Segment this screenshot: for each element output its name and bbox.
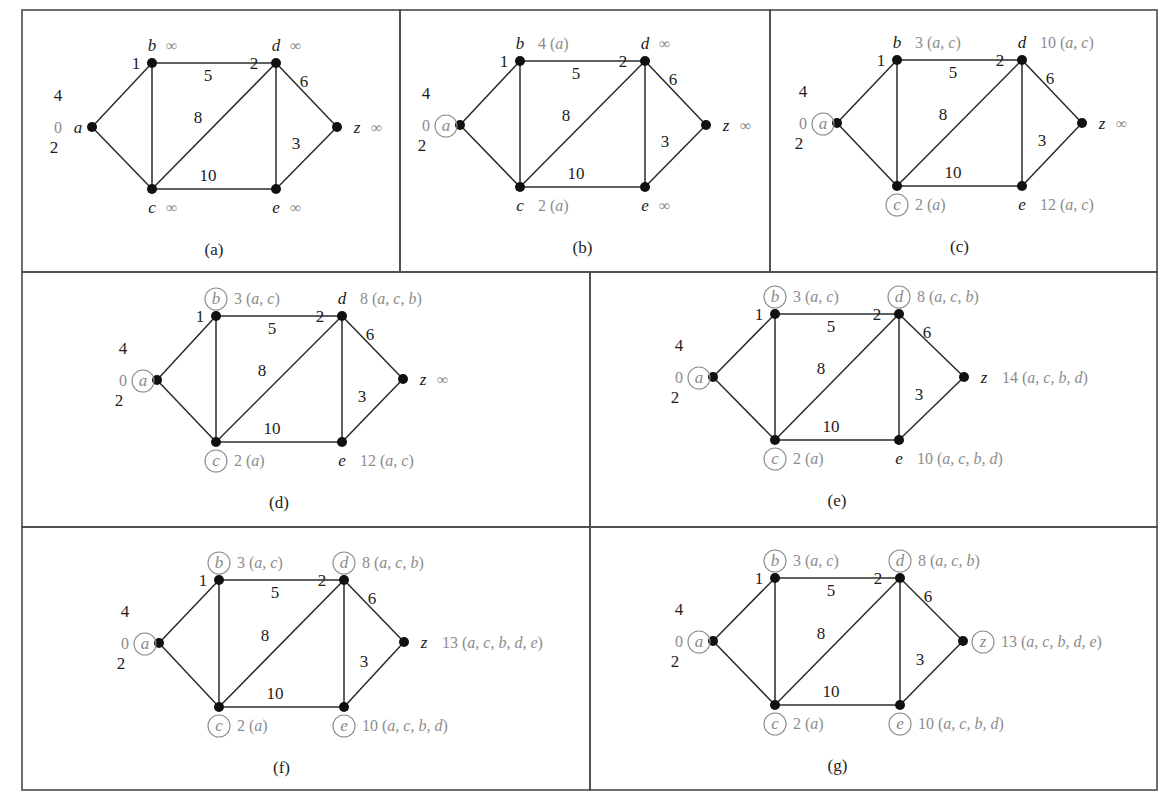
vertex-c-name: c bbox=[215, 716, 223, 735]
panel-d: 4215810263a0b3 (a, c)c2 (a)d8 (a, c, b)e… bbox=[22, 272, 590, 527]
edge-e-z bbox=[900, 641, 963, 705]
edge-a-c bbox=[460, 125, 520, 187]
vertex-z-dot bbox=[701, 120, 711, 130]
vertex-c-dot bbox=[770, 700, 780, 710]
vertex-a-distance-label: 0 bbox=[54, 119, 62, 136]
edge-weight: 8 bbox=[817, 624, 826, 643]
vertex-a-name: a bbox=[695, 632, 704, 651]
panel-b: 4215810263a0b4 (a)c2 (a)d∞e∞z∞(b) bbox=[400, 10, 770, 272]
vertex-z-dot bbox=[399, 637, 409, 647]
vertex-d-distance-label: 8 (a, c, b) bbox=[362, 554, 424, 572]
vertex-a-distance-label: 0 bbox=[422, 117, 430, 134]
vertex-z-name: z bbox=[980, 368, 988, 387]
edge-weight: 6 bbox=[669, 70, 678, 89]
edge-e-z bbox=[1022, 123, 1082, 186]
edge-weight: 2 bbox=[250, 54, 259, 73]
vertex-e-dot bbox=[1017, 181, 1027, 191]
vertex-d-name: d bbox=[338, 289, 347, 308]
vertex-z-distance-label: 13 (a, c, b, d, e) bbox=[442, 634, 543, 652]
edge-weight: 5 bbox=[949, 63, 958, 82]
edge-weight: 1 bbox=[199, 571, 208, 590]
edge-weight: 3 bbox=[1038, 131, 1047, 150]
vertex-b-dot bbox=[214, 575, 224, 585]
edge-weight: 8 bbox=[194, 108, 203, 127]
edge-weight: 5 bbox=[827, 317, 836, 336]
edge-weight: 3 bbox=[360, 652, 369, 671]
vertex-b-distance-label: 3 (a, c) bbox=[237, 554, 283, 572]
vertex-e-dot bbox=[337, 437, 347, 447]
edge-weight: 8 bbox=[562, 106, 571, 125]
vertex-d-name: d bbox=[272, 36, 281, 55]
vertex-c-dot bbox=[211, 437, 221, 447]
panel-caption: (a) bbox=[205, 240, 224, 259]
vertex-b-distance-label: 3 (a, c) bbox=[915, 34, 961, 52]
edge-weight: 5 bbox=[572, 64, 581, 83]
vertex-e-distance-label: 12 (a, c) bbox=[1040, 196, 1094, 214]
vertex-e-dot bbox=[894, 435, 904, 445]
vertex-c-dot bbox=[770, 435, 780, 445]
vertex-d-distance-label: ∞ bbox=[659, 35, 670, 52]
vertex-b-dot bbox=[147, 58, 157, 68]
vertex-z-distance-label: 14 (a, c, b, d) bbox=[1002, 369, 1088, 387]
edge-a-b bbox=[157, 316, 216, 380]
edge-weight: 1 bbox=[877, 51, 886, 70]
vertex-d-name: d bbox=[895, 287, 904, 306]
panel-frame bbox=[22, 527, 590, 790]
vertex-d-dot bbox=[1017, 55, 1027, 65]
vertex-e-name: e bbox=[895, 449, 903, 468]
panel-frame bbox=[22, 10, 400, 272]
vertex-b-name: b bbox=[771, 287, 780, 306]
vertex-e-dot bbox=[271, 184, 281, 194]
edge-weight: 6 bbox=[300, 72, 309, 91]
vertex-b-distance-label: ∞ bbox=[166, 37, 177, 54]
edge-weight: 6 bbox=[368, 589, 377, 608]
panel-caption: (f) bbox=[273, 758, 290, 777]
vertex-e-distance-label: 10 (a, c, b, d) bbox=[918, 715, 1004, 733]
vertex-e-dot bbox=[640, 182, 650, 192]
vertex-z-name: z bbox=[420, 633, 428, 652]
edge-weight: 3 bbox=[292, 134, 301, 153]
vertex-c-distance-label: 2 (a) bbox=[538, 197, 569, 215]
dijkstra-figure: 4215810263a0b∞c∞d∞e∞z∞(a)4215810263a0b4 … bbox=[0, 0, 1166, 807]
edge-weight: 4 bbox=[54, 86, 63, 105]
edge-weight: 2 bbox=[874, 569, 883, 588]
edge-weight: 2 bbox=[873, 305, 882, 324]
vertex-b-distance-label: 3 (a, c) bbox=[793, 288, 839, 306]
vertex-c-distance-label: 2 (a) bbox=[234, 452, 265, 470]
vertex-e-distance-label: 10 (a, c, b, d) bbox=[917, 450, 1003, 468]
vertex-e-name: e bbox=[338, 451, 346, 470]
panel-g: 4215810263a0b3 (a, c)c2 (a)d8 (a, c, b)e… bbox=[590, 527, 1157, 790]
edge-weight: 4 bbox=[799, 82, 808, 101]
vertex-b-dot bbox=[515, 56, 525, 66]
edge-weight: 4 bbox=[121, 602, 130, 621]
vertex-c-dot bbox=[515, 182, 525, 192]
edge-weight: 2 bbox=[318, 571, 327, 590]
edge-a-c bbox=[713, 641, 775, 705]
edge-weight: 4 bbox=[675, 336, 684, 355]
panel-e: 4215810263a0b3 (a, c)c2 (a)d8 (a, c, b)e… bbox=[590, 272, 1157, 527]
edge-a-b bbox=[159, 580, 219, 643]
vertex-d-dot bbox=[894, 309, 904, 319]
vertex-d-distance-label: 8 (a, c, b) bbox=[360, 290, 422, 308]
edge-weight: 4 bbox=[675, 600, 684, 619]
edge-weight: 8 bbox=[258, 361, 267, 380]
vertex-c-dot bbox=[892, 181, 902, 191]
vertex-z-distance-label: ∞ bbox=[437, 371, 448, 388]
vertex-c-name: c bbox=[771, 714, 779, 733]
edge-weight: 10 bbox=[568, 164, 585, 183]
vertex-d-distance-label: 8 (a, c, b) bbox=[918, 552, 980, 570]
vertex-b-dot bbox=[211, 311, 221, 321]
edge-e-z bbox=[342, 379, 403, 442]
edge-weight: 2 bbox=[795, 134, 804, 153]
vertex-a-distance-label: 0 bbox=[675, 369, 683, 386]
vertex-b-dot bbox=[770, 309, 780, 319]
vertex-e-name: e bbox=[896, 714, 904, 733]
vertex-z-dot bbox=[1077, 118, 1087, 128]
edge-weight: 10 bbox=[823, 417, 840, 436]
vertex-c-distance-label: 2 (a) bbox=[237, 717, 268, 735]
vertex-a-distance-label: 0 bbox=[799, 115, 807, 132]
vertex-e-name: e bbox=[272, 198, 280, 217]
vertex-e-distance-label: 12 (a, c) bbox=[360, 452, 414, 470]
panel-caption: (c) bbox=[950, 237, 969, 256]
panel-frame bbox=[770, 10, 1157, 272]
